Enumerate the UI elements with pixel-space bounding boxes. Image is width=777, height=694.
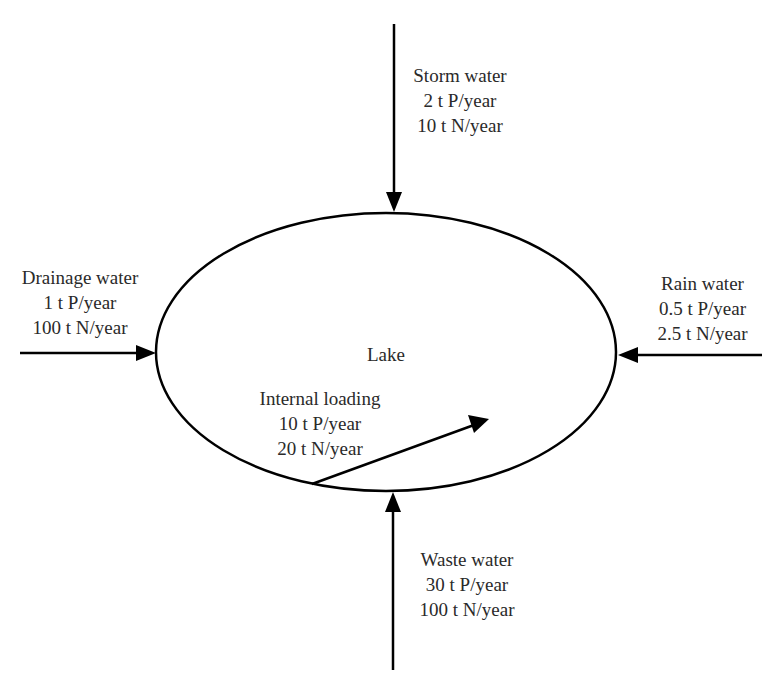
drainage-water-title: Drainage water — [0, 265, 160, 290]
rain-water-arrow — [618, 347, 762, 363]
drainage-water-n: 100 t N/year — [0, 315, 160, 340]
rain-water-title: Rain water — [640, 271, 765, 296]
internal-loading-n: 20 t N/year — [240, 436, 400, 461]
drainage-water-label: Drainage water 1 t P/year 100 t N/year — [0, 265, 160, 340]
drainage-water-arrow — [20, 345, 156, 361]
waste-water-p: 30 t P/year — [402, 572, 532, 597]
internal-loading-title: Internal loading — [240, 386, 400, 411]
waste-water-arrow — [385, 492, 401, 670]
lake-label: Lake — [346, 342, 426, 367]
storm-water-n: 10 t N/year — [395, 113, 525, 138]
waste-water-n: 100 t N/year — [402, 597, 532, 622]
storm-water-p: 2 t P/year — [395, 88, 525, 113]
storm-water-title: Storm water — [395, 63, 525, 88]
rain-water-label: Rain water 0.5 t P/year 2.5 t N/year — [640, 271, 765, 346]
rain-water-n: 2.5 t N/year — [640, 321, 765, 346]
drainage-water-p: 1 t P/year — [0, 290, 160, 315]
storm-water-label: Storm water 2 t P/year 10 t N/year — [395, 63, 525, 138]
internal-loading-label: Internal loading 10 t P/year 20 t N/year — [240, 386, 400, 461]
rain-water-p: 0.5 t P/year — [640, 296, 765, 321]
internal-loading-p: 10 t P/year — [240, 411, 400, 436]
waste-water-title: Waste water — [402, 547, 532, 572]
waste-water-label: Waste water 30 t P/year 100 t N/year — [402, 547, 532, 622]
